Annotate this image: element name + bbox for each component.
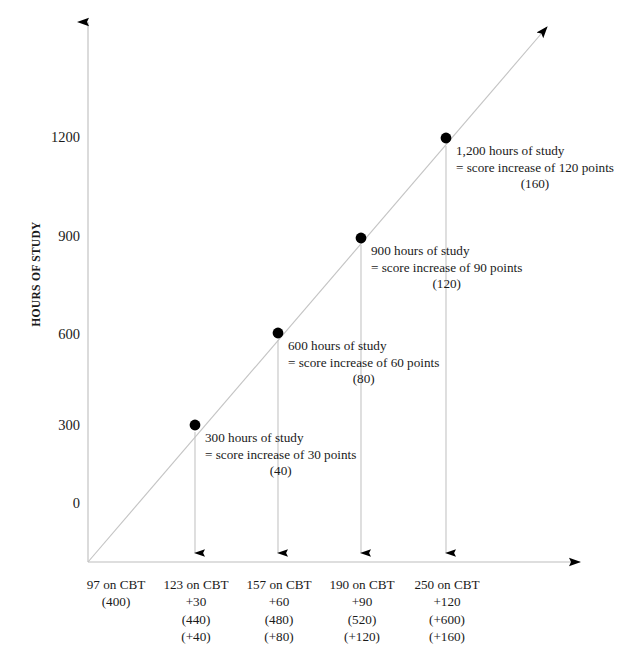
annotation-1200-line2: = score increase of 120 points [456, 160, 614, 177]
annotation-900: 900 hours of study = score increase of 9… [371, 243, 522, 293]
data-point-900[interactable] [356, 233, 367, 244]
x-tick-block-4-line1: 250 on CBT [387, 576, 507, 593]
annotation-300-line1: 300 hours of study [205, 430, 356, 447]
annotation-1200: 1,200 hours of study = score increase of… [456, 143, 614, 193]
trend-line [88, 27, 547, 562]
y-tick-label-1200: 1200 [34, 130, 80, 145]
annotation-900-line1: 900 hours of study [371, 243, 522, 260]
data-point-600[interactable] [273, 328, 284, 339]
x-tick-block-4-line3: (+600) [387, 611, 507, 628]
x-tick-block-4: 250 on CBT +120 (+600) (+160) [387, 576, 507, 646]
annotation-1200-line3: (160) [456, 176, 614, 193]
chart-figure: HOURS OF STUDY 1200 900 600 300 0 300 ho… [0, 0, 621, 647]
annotation-900-line2: = score increase of 90 points [371, 260, 522, 277]
data-point-300[interactable] [190, 420, 201, 431]
annotation-600-line2: = score increase of 60 points [288, 355, 439, 372]
y-tick-label-900: 900 [34, 229, 80, 244]
x-tick-block-4-line4: (+160) [387, 628, 507, 645]
x-tick-block-4-line2: +120 [387, 593, 507, 610]
data-point-1200[interactable] [441, 133, 452, 144]
annotation-300: 300 hours of study = score increase of 3… [205, 430, 356, 480]
y-tick-label-300: 300 [34, 418, 80, 433]
chart-canvas [0, 0, 621, 647]
annotation-1200-line1: 1,200 hours of study [456, 143, 614, 160]
annotation-300-line3: (40) [205, 463, 356, 480]
annotation-600: 600 hours of study = score increase of 6… [288, 338, 439, 388]
annotation-600-line1: 600 hours of study [288, 338, 439, 355]
y-tick-label-600: 600 [34, 327, 80, 342]
annotation-900-line3: (120) [371, 276, 522, 293]
annotation-300-line2: = score increase of 30 points [205, 447, 356, 464]
y-tick-label-0: 0 [34, 496, 80, 511]
annotation-600-line3: (80) [288, 371, 439, 388]
